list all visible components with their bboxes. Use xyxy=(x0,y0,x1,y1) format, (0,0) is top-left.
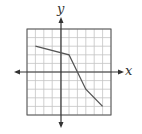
y-axis-down-arrow-icon xyxy=(59,122,64,128)
x-axis-label: x xyxy=(125,63,132,78)
y-axis-up-arrow-icon xyxy=(59,17,64,23)
y-axis-label: y xyxy=(57,1,64,16)
coordinate-plane xyxy=(0,0,142,134)
x-axis-left-arrow-icon xyxy=(14,70,20,75)
x-axis-right-arrow-icon xyxy=(118,70,124,75)
